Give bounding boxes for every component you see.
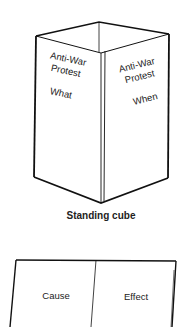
tent-cause-label: Cause bbox=[42, 290, 69, 301]
cube-center-fold-flap bbox=[104, 51, 105, 201]
tent-center-fold bbox=[91, 260, 96, 327]
cube-right-line3: When bbox=[132, 90, 159, 107]
foldable-diagram: Anti-War Protest What Anti-War Protest W… bbox=[0, 0, 180, 327]
standing-cube: Anti-War Protest What Anti-War Protest W… bbox=[34, 22, 169, 221]
tent-left-edge bbox=[10, 260, 16, 327]
cube-left-edge bbox=[34, 36, 36, 177]
tent-fold: Cause Effect bbox=[10, 260, 176, 327]
cube-left-line3: What bbox=[49, 85, 73, 100]
cube-caption: Standing cube bbox=[67, 210, 136, 221]
tent-effect-label: Effect bbox=[124, 291, 148, 302]
cube-top-back-edge bbox=[36, 22, 169, 36]
cube-right-edge bbox=[168, 34, 169, 178]
